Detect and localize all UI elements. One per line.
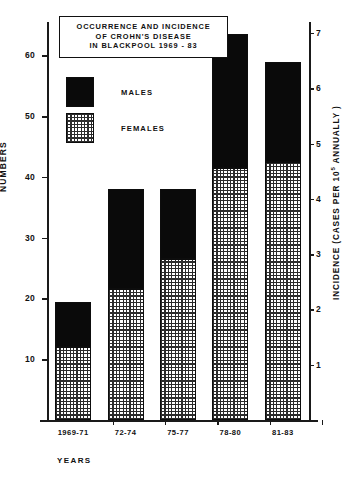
bar-segment-females: [160, 259, 196, 420]
y-axis-right-title-pre: INCIDENCE (CASES PER 10: [332, 171, 341, 300]
y-axis-right-tick-label: 4: [316, 194, 321, 204]
chart-title-line-3: IN BLACKPOOL 1969 - 83: [64, 41, 223, 51]
y-axis-right-tick: 4: [309, 199, 314, 200]
y-axis-right-tick-label: 5: [316, 138, 321, 148]
y-axis-left-tick-label: 30: [25, 233, 35, 243]
y-axis-left-tick: 60: [42, 55, 47, 56]
y-axis-right-tick: 1: [309, 365, 314, 366]
y-axis-left-tick-label: 60: [25, 50, 35, 60]
y-axis-right-title-exponent: 5: [330, 166, 336, 170]
bar-stack: [160, 189, 196, 420]
x-axis-tick: [165, 420, 166, 425]
x-axis-tick: [270, 420, 271, 425]
y-axis-right-tick: 6: [309, 88, 314, 89]
y-axis-right-tick-label: 2: [316, 304, 321, 314]
bar-segment-females: [55, 347, 91, 420]
legend-label-females: FEMALES: [121, 124, 165, 133]
y-axis-right-tick-label: 3: [316, 249, 321, 259]
y-axis-left-tick-label: 10: [25, 354, 35, 364]
bar-segment-males: [265, 62, 301, 162]
bar-stack: [265, 62, 301, 421]
x-axis-tick: [217, 420, 218, 425]
x-axis-tick: [322, 420, 323, 425]
y-axis-left-title: NUMBERS: [0, 141, 8, 192]
y-axis-left-tick-label: 20: [25, 293, 35, 303]
legend-label-males: MALES: [121, 88, 153, 97]
y-axis-left-tick: 50: [42, 116, 47, 117]
x-axis-line: [40, 420, 318, 422]
y-axis-left-tick: 20: [42, 298, 47, 299]
bar-segment-males: [108, 189, 144, 289]
y-axis-right-tick-label: 7: [316, 28, 321, 38]
y-axis-right-tick: 3: [309, 254, 314, 255]
chart-title-line-2: OF CROHN'S DISEASE: [64, 32, 223, 42]
y-axis-left-tick-label: 40: [25, 172, 35, 182]
y-axis-right-tick: 2: [309, 309, 314, 310]
bar-stack: [108, 189, 144, 420]
x-axis-title: YEARS: [57, 456, 92, 465]
y-axis-right-tick-label: 1: [316, 360, 321, 370]
y-axis-right-tick: 7: [309, 33, 314, 34]
y-axis-right-tick-label: 6: [316, 83, 321, 93]
x-axis-tick: [113, 420, 114, 425]
x-axis-category-label: 81-83: [243, 428, 323, 437]
bar-segment-females: [108, 289, 144, 420]
y-axis-left-tick: 10: [42, 359, 47, 360]
legend-swatch-females: [66, 113, 94, 143]
bar-segment-males: [160, 189, 196, 259]
y-axis-left-tick: 30: [42, 238, 47, 239]
chart-title-line-1: OCCURRENCE AND INCIDENCE: [64, 22, 223, 32]
bar-stack: [55, 302, 91, 420]
bar-segment-males: [55, 302, 91, 348]
bar-segment-females: [212, 168, 248, 420]
legend-swatch-males: [66, 77, 94, 107]
y-axis-right-tick: 5: [309, 144, 314, 145]
y-axis-left-tick: 40: [42, 177, 47, 178]
bar-stack: [212, 34, 248, 420]
y-axis-right-title-post: ANNUALLY ): [332, 105, 341, 166]
bar-segment-females: [265, 162, 301, 420]
chart-title-box: OCCURRENCE AND INCIDENCE OF CROHN'S DISE…: [59, 16, 228, 58]
y-axis-left-tick-label: 50: [25, 111, 35, 121]
y-axis-right-title: INCIDENCE (CASES PER 105 ANNUALLY ): [330, 105, 341, 300]
